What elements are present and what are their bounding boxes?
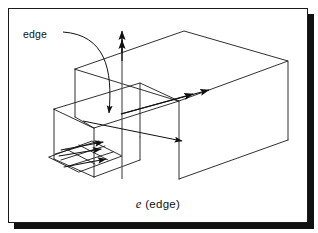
figure-root: edge e (edge) [0,0,318,233]
edge-callout-label: edge [23,28,47,40]
plane-arrow-b [59,149,101,156]
figure-frame: edge e (edge) [8,8,308,223]
diagram-canvas [9,9,309,224]
depth-arrow [83,121,182,141]
outer-box [75,31,288,179]
plane-arrow-c [64,159,106,167]
diagonal-arrow [121,90,209,114]
caption-symbol: e [136,197,142,211]
inner-box [54,83,179,177]
caption-parenthetical: (edge) [145,198,180,210]
figure-caption: e (edge) [9,197,307,212]
